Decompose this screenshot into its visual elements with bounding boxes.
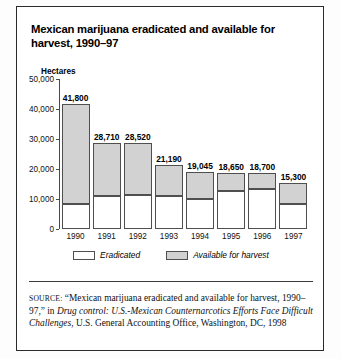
bar-value-label: 28,710 — [94, 132, 120, 142]
bar-segment-available — [155, 165, 183, 195]
bar-value-label: 18,700 — [250, 162, 276, 172]
x-axis-label: 1990 — [66, 232, 84, 241]
x-axis-label: 1995 — [222, 232, 240, 241]
bar-segment-eradicated — [62, 204, 90, 229]
y-axis-tick-label: 20,000 — [29, 165, 54, 174]
plot-area: 010,00020,00030,00040,00050,000 199041,8… — [59, 79, 309, 229]
bar-value-label: 21,190 — [156, 154, 182, 164]
bar-segment-eradicated — [217, 191, 245, 229]
bar-segment-eradicated — [155, 196, 183, 229]
y-axis-tick-label: 40,000 — [29, 105, 54, 114]
y-axis-tick-label: 0 — [49, 225, 54, 234]
bar-segment-available — [248, 173, 276, 190]
x-axis-label: 1997 — [284, 232, 302, 241]
y-axis-tick-label: 30,000 — [29, 135, 54, 144]
bar-value-label: 41,800 — [63, 93, 89, 103]
bar-segment-available — [124, 143, 152, 194]
divider — [29, 281, 313, 282]
y-axis-tick-label: 10,000 — [29, 195, 54, 204]
x-axis-label: 1991 — [98, 232, 116, 241]
bar-segment-eradicated — [124, 195, 152, 229]
y-axis-tick — [56, 139, 59, 140]
legend-label: Eradicated — [100, 250, 140, 260]
bar-column: 28,520 — [124, 143, 152, 229]
bar-column: 21,190 — [155, 165, 183, 229]
y-axis-tick — [56, 199, 59, 200]
bar-segment-eradicated — [248, 189, 276, 229]
bar-value-label: 28,520 — [125, 132, 151, 142]
bar-segment-available — [217, 173, 245, 191]
legend-label: Available for harvest — [193, 250, 269, 260]
bar-segment-eradicated — [93, 196, 121, 229]
bar-value-label: 18,650 — [218, 162, 244, 172]
x-axis-label: 1993 — [160, 232, 178, 241]
bar-segment-available — [186, 172, 214, 199]
y-axis-tick — [56, 229, 59, 230]
bar-column: 19,045 — [186, 172, 214, 229]
bar-segment-available — [62, 104, 90, 205]
source-text-2: , U.S. General Accounting Office, Washin… — [71, 318, 286, 328]
legend-swatch — [166, 251, 188, 260]
bar-column: 18,650 — [217, 173, 245, 229]
y-axis-tick-label: 50,000 — [29, 75, 54, 84]
legend-item: Eradicated — [73, 250, 140, 260]
chart-area: Hectares 010,00020,00030,00040,00050,000… — [17, 7, 325, 279]
bar-value-label: 19,045 — [187, 161, 213, 171]
bar-column: 41,800 — [62, 104, 90, 229]
bar-segment-eradicated — [186, 199, 214, 229]
bar-value-label: 15,300 — [281, 172, 307, 182]
x-axis-label: 1992 — [129, 232, 147, 241]
bar-segment-available — [279, 183, 307, 204]
bar-group: 199041,800199128,710199228,520199321,190… — [60, 79, 309, 229]
y-axis-tick — [56, 109, 59, 110]
bar-column: 15,300 — [279, 183, 307, 229]
y-axis-tick — [56, 169, 59, 170]
bar-segment-available — [93, 143, 121, 196]
y-axis-tick — [56, 79, 59, 80]
chart-legend: EradicatedAvailable for harvest — [17, 250, 325, 260]
source-prefix: SOURCE: — [29, 294, 62, 303]
source-note: SOURCE: “Mexican marijuana eradicated an… — [29, 292, 315, 330]
x-axis-label: 1994 — [191, 232, 209, 241]
legend-item: Available for harvest — [166, 250, 269, 260]
bar-segment-eradicated — [279, 204, 307, 229]
bar-column: 18,700 — [248, 173, 276, 229]
x-axis-label: 1996 — [253, 232, 271, 241]
figure-page: Mexican marijuana eradicated and availab… — [0, 0, 341, 359]
bar-column: 28,710 — [93, 143, 121, 229]
legend-swatch — [73, 251, 95, 260]
figure-frame: Mexican marijuana eradicated and availab… — [16, 6, 324, 351]
